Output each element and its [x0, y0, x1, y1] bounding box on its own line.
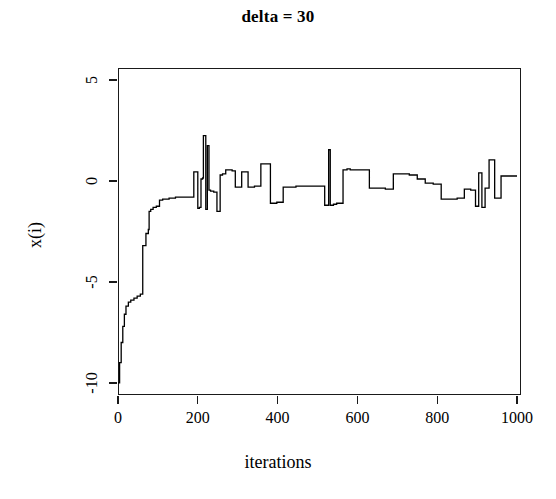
x-tick-label: 600	[345, 409, 369, 427]
chart-title: delta = 30	[0, 7, 556, 27]
trace-polyline	[118, 136, 517, 383]
x-tick-label: 1000	[501, 409, 533, 427]
x-tick-label: 200	[186, 409, 210, 427]
x-tick-mark	[516, 396, 517, 404]
y-tick-mark	[109, 382, 117, 383]
trace-line-series	[118, 68, 521, 395]
y-tick-label: -10	[83, 372, 101, 393]
x-tick-mark	[277, 396, 278, 404]
plot-area	[118, 68, 521, 395]
x-tick-mark	[437, 396, 438, 404]
x-tick-label: 0	[114, 409, 122, 427]
trace-plot-figure: delta = 30 x(i) iterations 50-5-10 02004…	[0, 0, 556, 499]
x-tick-mark	[117, 396, 118, 404]
y-tick-mark	[109, 281, 117, 282]
y-tick-mark	[109, 180, 117, 181]
x-tick-label: 800	[425, 409, 449, 427]
y-axis-label: x(i)	[25, 222, 46, 248]
x-tick-label: 400	[266, 409, 290, 427]
x-tick-mark	[197, 396, 198, 404]
y-tick-label: -5	[83, 275, 101, 288]
y-tick-label: 0	[83, 177, 101, 185]
y-tick-label: 5	[83, 76, 101, 84]
y-tick-mark	[109, 79, 117, 80]
x-axis-label: iterations	[0, 452, 556, 473]
x-tick-mark	[357, 396, 358, 404]
